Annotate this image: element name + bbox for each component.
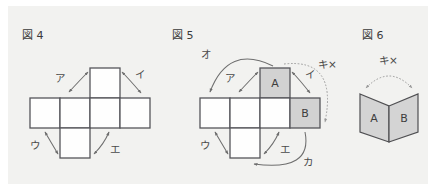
figure-6: 図 6 A B キ× xyxy=(338,6,441,184)
fig5-arrow-e-curve xyxy=(264,132,279,154)
fig6-arrow-ki-label: キ× xyxy=(379,54,398,66)
fig4-arrow-a-label: ア xyxy=(55,72,65,84)
fig4-arrow-u-curve xyxy=(45,132,58,154)
fig5-face-center xyxy=(260,98,290,128)
figure-5-label: 図 5 xyxy=(172,29,194,42)
fig5-arrow-a-label: ア xyxy=(225,72,235,84)
fig4-face-center xyxy=(90,98,120,128)
fig5-arrow-ki-label: キ× xyxy=(318,58,337,70)
fig4-face-bottom xyxy=(60,128,90,158)
fig4-face-left-inner xyxy=(60,98,90,128)
fig5-face-top-letter: A xyxy=(271,77,279,90)
fig5-arrow-e-label: エ xyxy=(280,143,290,155)
fig5-face-right-outer-letter: B xyxy=(301,107,309,120)
fig5-face-bottom xyxy=(230,128,260,158)
fig5-arrow-o-label: オ xyxy=(201,48,211,60)
fig4-arrow-i-label: イ xyxy=(135,68,145,80)
figure-4-label: 図 4 xyxy=(22,29,44,42)
fig4-arrow-e-label: エ xyxy=(110,143,120,155)
fig5-arrow-u-label: ウ xyxy=(200,139,210,151)
fig6-panel-a-letter: A xyxy=(370,112,378,125)
fig5-arrow-a-curve xyxy=(239,72,258,92)
fig4-face-top xyxy=(90,68,120,98)
fig5-arrow-i-label: イ xyxy=(305,68,315,80)
figure-6-label: 図 6 xyxy=(362,29,384,42)
fig5-arrow-u-curve xyxy=(215,132,228,154)
fig4-face-left-outer xyxy=(30,98,60,128)
fig6-panel-b-letter: B xyxy=(400,112,408,125)
fig4-arrow-u-label: ウ xyxy=(30,139,40,151)
fig6-arrow-ki-curve xyxy=(366,76,412,88)
fig5-face-left-inner xyxy=(230,98,260,128)
fig4-arrow-a-curve xyxy=(69,72,88,92)
fig4-face-right-outer xyxy=(120,98,150,128)
figure-4: 図 4 ア イ ウ エ xyxy=(8,6,158,184)
fig4-arrow-e-curve xyxy=(94,132,109,154)
figure-5: 図 5 A B ア イ ウ エ オ カ キ× xyxy=(158,6,348,184)
figure-panel: 図 4 ア イ ウ エ 図 5 xyxy=(8,6,428,184)
fig5-arrow-ka-label: カ xyxy=(303,156,313,168)
fig5-face-left-outer xyxy=(200,98,230,128)
